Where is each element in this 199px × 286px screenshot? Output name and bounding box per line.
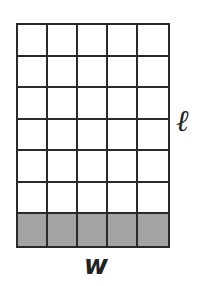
unit-square [78, 25, 108, 57]
rectangle-grid [16, 23, 170, 248]
shaded-unit-square [18, 214, 48, 246]
shaded-unit-square [108, 214, 138, 246]
unit-square [108, 25, 138, 57]
width-label: w [84, 252, 108, 278]
unit-square [108, 57, 138, 89]
unit-square [78, 57, 108, 89]
unit-square [108, 183, 138, 215]
length-label: ℓ [176, 106, 189, 136]
unit-square [138, 88, 168, 120]
shaded-unit-square [78, 214, 108, 246]
unit-square [48, 183, 78, 215]
unit-square [18, 25, 48, 57]
unit-square [78, 183, 108, 215]
unit-square [48, 151, 78, 183]
unit-square [78, 120, 108, 152]
shaded-unit-square [48, 214, 78, 246]
unit-square [78, 151, 108, 183]
unit-square [138, 183, 168, 215]
unit-square [138, 151, 168, 183]
unit-square [138, 25, 168, 57]
unit-square [108, 88, 138, 120]
unit-square [108, 120, 138, 152]
unit-square [108, 151, 138, 183]
unit-square [48, 57, 78, 89]
unit-square [18, 120, 48, 152]
unit-square [18, 88, 48, 120]
unit-square [48, 88, 78, 120]
unit-square [48, 120, 78, 152]
unit-square [18, 151, 48, 183]
unit-square [78, 88, 108, 120]
unit-square [138, 120, 168, 152]
unit-square [138, 57, 168, 89]
unit-square [18, 183, 48, 215]
unit-square [18, 57, 48, 89]
shaded-unit-square [138, 214, 168, 246]
unit-square [48, 25, 78, 57]
